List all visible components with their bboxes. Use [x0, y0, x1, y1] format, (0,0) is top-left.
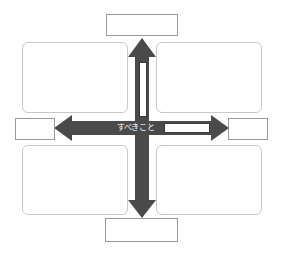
- axis-label-bottom[interactable]: [105, 218, 178, 242]
- axis-label-left[interactable]: [15, 118, 55, 140]
- quadrant-diagram: すべきこと: [0, 0, 281, 256]
- axis-label-top[interactable]: [106, 14, 178, 36]
- axis-label-right[interactable]: [228, 118, 268, 140]
- arrowhead-left-icon: [54, 115, 72, 141]
- arrowhead-up-icon: [128, 38, 156, 57]
- arrowhead-right-icon: [211, 115, 229, 141]
- center-label: すべきこと: [117, 123, 155, 133]
- vertical-arrow-field[interactable]: [139, 62, 147, 117]
- horizontal-arrow-field[interactable]: [164, 123, 210, 133]
- arrowhead-down-icon: [128, 200, 156, 218]
